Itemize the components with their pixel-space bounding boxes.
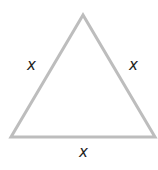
triangle bbox=[11, 15, 155, 137]
right-side-label: x bbox=[129, 58, 138, 73]
bottom-side-label: x bbox=[79, 145, 88, 160]
left-side-label: x bbox=[27, 58, 36, 73]
